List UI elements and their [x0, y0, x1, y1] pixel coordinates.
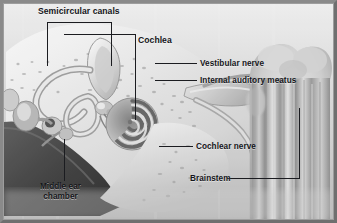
label-cochlea: Cochlea [138, 36, 172, 46]
leader-semicircular-canals-left [47, 22, 48, 66]
label-brainstem: Brainstem [190, 174, 231, 184]
leader-vestibular-nerve [155, 63, 197, 64]
inner-ear-diagram: Semicircular canals Cochlea Vestibular n… [0, 0, 337, 223]
leader-brainstem [227, 178, 300, 179]
leader-middle-ear-chamber [64, 139, 65, 181]
label-vestibular-nerve: Vestibular nerve [200, 59, 264, 69]
label-semicircular-canals: Semicircular canals [38, 7, 120, 17]
label-cochlear-nerve: Cochlear nerve [196, 142, 256, 152]
illustration-plate: Semicircular canals Cochlea Vestibular n… [4, 4, 333, 219]
label-internal-auditory-meatus: Internal auditory meatus [200, 76, 296, 86]
leader-semicircular-canals-right [111, 22, 112, 66]
leader-cochlea-horizontal [64, 34, 136, 35]
label-middle-ear-chamber: Middle ear chamber [40, 182, 81, 201]
leader-cochlea-vertical [135, 34, 136, 120]
leader-brainstem-riser [299, 108, 300, 178]
leader-internal-auditory-meatus [155, 80, 197, 81]
leader-cochlear-nerve [159, 146, 193, 147]
leader-semicircular-canals-top [47, 22, 112, 23]
